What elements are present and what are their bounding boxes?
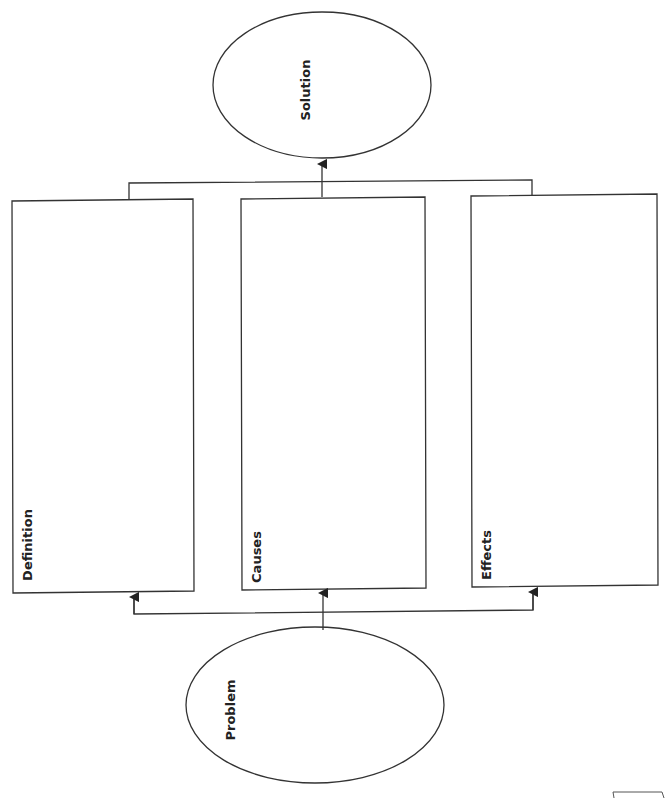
diagram-canvas: Solution Definition Causes Effects Probl… [0,0,668,798]
page-corner-mark [613,792,664,798]
effects-box: Effects [471,194,658,587]
problem-label: Problem [223,680,238,741]
problem-node: Problem [186,627,444,783]
definition-box: Definition [12,199,194,593]
definition-label: Definition [20,509,35,581]
solution-label: Solution [298,60,313,121]
bottom-connector [134,590,533,630]
top-connector [129,164,532,200]
solution-node: Solution [213,12,431,158]
effects-label: Effects [479,530,494,580]
causes-box: Causes [241,197,426,590]
causes-label: Causes [249,531,264,583]
